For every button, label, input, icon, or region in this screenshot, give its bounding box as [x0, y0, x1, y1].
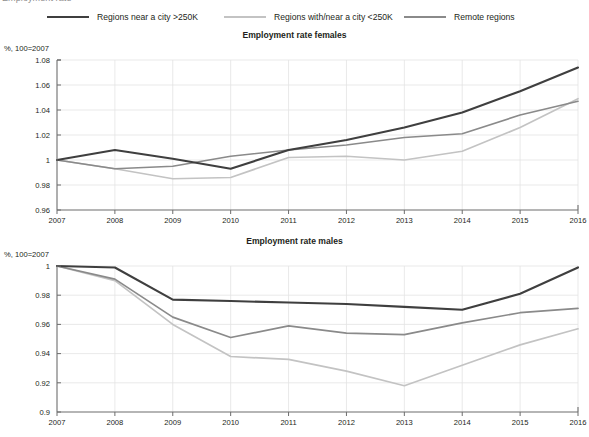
chart-title-females: Employment rate females	[0, 30, 589, 40]
svg-text:2007: 2007	[49, 418, 66, 427]
legend-item-remote-regions: Remote regions	[404, 10, 515, 24]
line-chart-employment-rate-females: 0.960.9811.021.041.061.08200720082009201…	[0, 54, 589, 230]
svg-text:2012: 2012	[338, 418, 355, 427]
svg-text:2008: 2008	[106, 418, 123, 427]
legend-label-1: Regions with/near a city <250K	[274, 13, 393, 22]
svg-text:2007: 2007	[49, 216, 66, 225]
chart-legend: Regions near a city >250K Regions with/n…	[0, 10, 589, 24]
clipped-header-text: Employment rate	[2, 0, 72, 3]
svg-text:2012: 2012	[338, 216, 355, 225]
svg-text:2015: 2015	[512, 418, 529, 427]
svg-text:0.9: 0.9	[39, 408, 50, 417]
chart-title-males: Employment rate males	[0, 236, 589, 246]
svg-text:2013: 2013	[396, 418, 413, 427]
svg-text:2013: 2013	[396, 216, 413, 225]
svg-text:1.08: 1.08	[35, 56, 50, 65]
svg-text:2015: 2015	[512, 216, 529, 225]
chart-page: Employment rate Regions near a city >250…	[0, 0, 589, 437]
svg-text:2016: 2016	[570, 216, 587, 225]
svg-text:0.98: 0.98	[35, 291, 50, 300]
legend-swatch-light	[224, 16, 266, 18]
legend-label-2: Remote regions	[454, 13, 515, 22]
y-axis-unit-label-males: %, 100=2007	[4, 250, 49, 259]
svg-text:2010: 2010	[222, 216, 239, 225]
svg-text:2011: 2011	[280, 216, 296, 225]
svg-text:0.96: 0.96	[35, 320, 50, 329]
legend-label-0: Regions near a city >250K	[97, 13, 198, 22]
svg-text:2014: 2014	[454, 216, 471, 225]
svg-text:2014: 2014	[454, 418, 471, 427]
svg-text:2008: 2008	[106, 216, 123, 225]
svg-text:2011: 2011	[280, 418, 296, 427]
svg-text:1.04: 1.04	[35, 106, 50, 115]
svg-text:0.98: 0.98	[35, 181, 50, 190]
svg-text:2010: 2010	[222, 418, 239, 427]
svg-text:1.06: 1.06	[35, 81, 50, 90]
legend-swatch-medium	[404, 16, 446, 18]
line-chart-employment-rate-males: 0.90.920.940.960.98120072008200920102011…	[0, 260, 589, 432]
svg-text:0.94: 0.94	[35, 349, 50, 358]
svg-text:2009: 2009	[164, 216, 181, 225]
legend-item-regions-near-city-250k: Regions near a city >250K	[47, 10, 198, 24]
svg-text:0.92: 0.92	[35, 379, 50, 388]
svg-text:0.96: 0.96	[35, 206, 50, 215]
svg-text:1: 1	[46, 262, 50, 271]
svg-text:2016: 2016	[570, 418, 587, 427]
svg-text:1.02: 1.02	[35, 131, 50, 140]
y-axis-unit-label-females: %, 100=2007	[4, 44, 49, 53]
svg-text:2009: 2009	[164, 418, 181, 427]
legend-item-regions-with-near-city-250k: Regions with/near a city <250K	[224, 10, 393, 24]
svg-text:1: 1	[46, 156, 50, 165]
legend-swatch-dark	[47, 16, 89, 18]
